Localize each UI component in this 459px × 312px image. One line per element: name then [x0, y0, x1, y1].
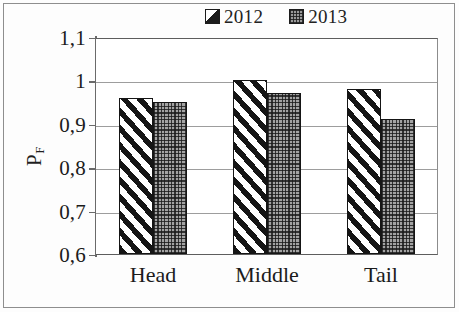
y-axis-tick-label: 1 — [32, 71, 86, 92]
bar-tail-2012 — [347, 89, 381, 254]
legend-label-2012: 2012 — [224, 7, 263, 26]
bar-chart-figure: 2012 2013 PF 0,60,70,80,911,1 HeadMiddle… — [0, 0, 459, 312]
bar-middle-2013 — [267, 93, 301, 254]
x-axis-label-tail: Tail — [364, 264, 398, 286]
x-axis-label-middle: Middle — [235, 264, 299, 286]
x-axis-label-head: Head — [130, 264, 176, 286]
x-axis-category-labels: HeadMiddleTail — [96, 264, 438, 298]
y-axis-tick-labels: 0,60,70,80,911,1 — [30, 0, 86, 312]
legend-swatch-2012-icon — [205, 9, 220, 24]
plot-area — [96, 38, 438, 255]
y-axis-tick-mark — [89, 255, 95, 256]
y-axis-tick-label: 0,6 — [32, 245, 86, 266]
y-axis-tick-label: 0,8 — [32, 158, 86, 179]
y-axis-tick-mark — [89, 125, 95, 126]
legend-entry-2013: 2013 — [289, 7, 347, 26]
legend-label-2013: 2013 — [308, 7, 347, 26]
y-axis-tick-mark — [89, 212, 95, 213]
y-axis-tick-mark — [89, 168, 95, 169]
bar-head-2013 — [153, 102, 187, 254]
bar-head-2012 — [119, 98, 153, 254]
y-axis-tick-label: 1,1 — [32, 28, 86, 49]
legend-entry-2012: 2012 — [205, 7, 263, 26]
bar-middle-2012 — [233, 80, 267, 254]
y-axis-tick-mark — [89, 38, 95, 39]
bar-tail-2013 — [381, 119, 415, 254]
legend-swatch-2013-icon — [289, 9, 304, 24]
y-axis-tick-label: 0,7 — [32, 201, 86, 222]
chart-legend: 2012 2013 — [205, 4, 405, 28]
y-axis-tick-mark — [89, 81, 95, 82]
y-axis-tick-label: 0,9 — [32, 114, 86, 135]
